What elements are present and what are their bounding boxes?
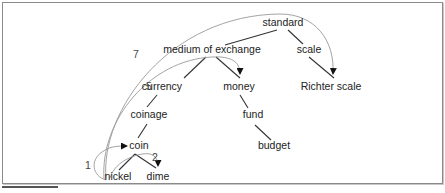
hierarchy-diagram: standard medium of exchange scale curren… [0, 0, 445, 193]
node-nickel: nickel [105, 170, 132, 182]
node-richter-scale: Richter scale [301, 80, 362, 92]
node-standard: standard [263, 16, 304, 28]
path-label-7: 7 [133, 48, 139, 60]
node-budget: budget [258, 139, 290, 151]
node-scale: scale [297, 43, 322, 55]
node-money: money [223, 80, 255, 92]
path-label-5: 5 [146, 80, 152, 92]
node-dime: dime [147, 170, 170, 182]
node-coin: coin [129, 139, 148, 151]
path-label-1: 1 [85, 159, 91, 171]
tree-nodes: standard medium of exchange scale curren… [105, 16, 362, 182]
node-coinage: coinage [131, 108, 168, 120]
node-fund: fund [243, 108, 264, 120]
node-medium-of-exchange: medium of exchange [163, 43, 261, 55]
path-label-2: 2 [152, 151, 158, 163]
